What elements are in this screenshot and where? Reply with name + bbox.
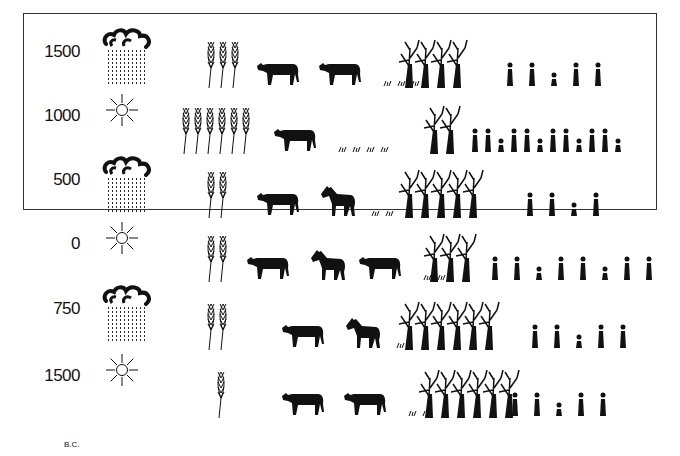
person-icon [598,392,608,416]
person-icon [587,128,597,152]
year-label: 500 [30,170,80,190]
grass-tuft-icon [380,146,390,152]
person-icon [569,202,579,216]
year-label: 750 [30,299,80,319]
wheat-icon [205,300,217,350]
wheat-icon [217,300,229,350]
person-icon [535,138,545,152]
wheat-icon [228,104,240,154]
person-icon [490,256,500,280]
sun-icon [102,220,142,256]
person-icon [556,256,566,280]
person-icon [527,62,537,86]
weather-icon-group [100,156,156,214]
person-icon [622,256,632,280]
person-icon [522,128,532,152]
person-icon [578,256,588,280]
grass-tuft-icon [352,146,362,152]
horse-icon [317,184,357,218]
person-icon [510,392,520,416]
wheat-icon [180,104,192,154]
person-icon [505,62,515,86]
cow-icon [255,60,301,86]
wheat-icon [217,232,229,282]
rain-cloud-icon [100,285,156,343]
person-icon [596,324,606,348]
cow-icon [245,254,291,280]
cow-icon [280,390,326,416]
cow-icon [317,60,363,86]
person-icon [549,72,559,86]
person-icon [470,128,480,152]
wheat-icon [204,104,216,154]
weather-icon-group [100,28,156,86]
grass-tuft-icon [366,146,376,152]
weather-icon-group [100,285,156,343]
grass-tuft-icon [383,80,393,86]
person-icon [509,128,519,152]
rain-cloud-icon [100,156,156,214]
year-label: 1000 [30,106,80,126]
wheat-icon [217,38,229,88]
grass-tuft-icon [385,210,395,216]
person-icon [618,324,628,348]
wheat-icon [217,168,229,218]
bare-tree-icon [459,164,485,218]
wheat-icon [205,38,217,88]
rain-cloud-icon [100,28,156,86]
cow-icon [255,190,301,216]
person-icon [548,128,558,152]
horse-icon [307,248,347,282]
person-icon [574,138,584,152]
weather-icon-group [102,92,142,128]
weather-icon-group [102,352,142,388]
bare-tree-icon [436,100,462,154]
sun-icon [102,352,142,388]
year-label: 0 [30,234,80,254]
cow-icon [280,322,326,348]
person-icon [574,334,584,348]
sun-icon [102,92,142,128]
grass-tuft-icon [338,146,348,152]
person-icon [532,392,542,416]
person-icon [534,266,544,280]
person-icon [530,324,540,348]
person-icon [591,192,601,216]
person-icon [496,138,506,152]
horse-icon [342,316,382,350]
year-label: 1500 [30,42,80,62]
person-icon [552,324,562,348]
person-icon [512,256,522,280]
wheat-icon [216,104,228,154]
wheat-icon [229,38,241,88]
weather-icon-group [102,220,142,256]
wheat-icon [215,368,227,418]
person-icon [483,128,493,152]
era-label: B.C. [64,440,80,449]
person-icon [600,266,610,280]
cow-icon [342,390,388,416]
wheat-icon [205,168,217,218]
person-icon [644,256,654,280]
person-icon [576,392,586,416]
bare-tree-icon [443,34,469,88]
wheat-icon [192,104,204,154]
person-icon [600,128,610,152]
year-label: 1500 [30,366,80,386]
person-icon [571,62,581,86]
person-icon [593,62,603,86]
bare-tree-icon [475,296,501,350]
wheat-icon [205,232,217,282]
cow-icon [357,254,403,280]
cow-icon [272,126,318,152]
bare-tree-icon [452,228,478,282]
wheat-icon [240,104,252,154]
person-icon [525,192,535,216]
person-icon [547,192,557,216]
person-icon [613,138,623,152]
person-icon [561,128,571,152]
person-icon [554,402,564,416]
grass-tuft-icon [371,210,381,216]
